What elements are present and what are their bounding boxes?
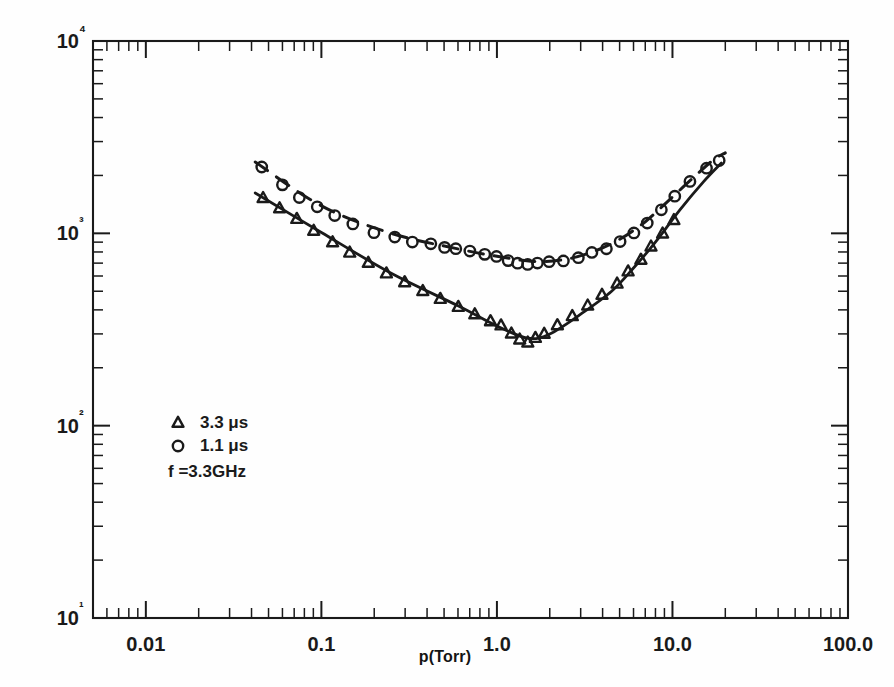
x-tick-label: 0.01 [126, 633, 165, 655]
legend-label: 3.3 μs [200, 413, 248, 432]
x-tick-label: 10.0 [653, 633, 692, 655]
legend-marker-circle [173, 441, 183, 451]
paschen-curve-chart: 0.010.11.010.0100.0 10¹10²10³10⁴ 3.3 μs1… [0, 0, 894, 687]
svg-text:10: 10 [57, 30, 79, 52]
data-point-circle [670, 191, 680, 201]
legend-label: 1.1 μs [200, 436, 248, 455]
figure-container: 0.010.11.010.0100.0 10¹10²10³10⁴ 3.3 μs1… [0, 0, 894, 687]
data-point-circle [407, 237, 417, 247]
legend: 3.3 μs1.1 μsf =3.3GHz [168, 413, 248, 481]
legend-marker-triangle [173, 417, 184, 427]
y-tick-label: 10¹ [57, 599, 84, 629]
legend-frequency-note: f =3.3GHz [168, 462, 246, 481]
data-point-markers [257, 155, 725, 346]
x-tick-label: 100.0 [823, 633, 873, 655]
y-axis-ticks [93, 41, 848, 618]
data-point-circle [587, 247, 597, 257]
x-axis-title: p(Torr) [330, 648, 560, 666]
svg-text:⁴: ⁴ [79, 22, 86, 38]
svg-text:10: 10 [57, 607, 79, 629]
svg-text:¹: ¹ [79, 599, 84, 615]
plot-frame [93, 41, 848, 618]
data-point-circle [512, 258, 522, 268]
y-tick-label: 10³ [57, 214, 84, 244]
svg-text:²: ² [79, 407, 84, 423]
svg-text:10: 10 [57, 415, 79, 437]
svg-text:10: 10 [57, 222, 79, 244]
svg-text:³: ³ [79, 214, 84, 230]
data-point-triangle [552, 319, 563, 329]
x-axis-ticks [93, 41, 848, 618]
y-tick-label: 10² [57, 407, 84, 437]
y-axis-tick-labels: 10¹10²10³10⁴ [57, 22, 86, 629]
y-tick-label: 10⁴ [57, 22, 86, 52]
